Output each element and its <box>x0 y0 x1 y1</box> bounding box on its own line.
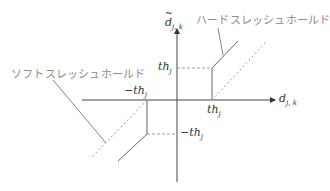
pos-y-threshold-label: thj <box>158 60 172 75</box>
soft-threshold-label: ソフトスレッシュホールド <box>11 65 145 81</box>
x-axis-label: dj, k <box>279 92 297 107</box>
neg-y-threshold-label: −thj <box>180 126 203 141</box>
soft-annotation-pointer <box>53 80 106 143</box>
soft-threshold-positive <box>212 42 266 100</box>
hard-threshold-negative <box>118 100 147 161</box>
y-axis-symbol: d <box>165 16 172 29</box>
x-axis-subscript: j, k <box>286 99 297 107</box>
y-axis-subscript: j, k <box>172 23 183 31</box>
pos-y-threshold-sub: j <box>170 67 172 75</box>
pos-y-threshold-text: th <box>158 60 170 73</box>
pos-x-threshold-label: thj <box>207 103 221 118</box>
pos-x-threshold-sub: j <box>219 110 221 118</box>
hard-annotation-pointer <box>218 28 223 55</box>
neg-y-threshold-sub: j <box>201 133 203 141</box>
neg-x-threshold-label: −thj <box>124 84 147 99</box>
neg-y-threshold-text: −th <box>180 126 201 139</box>
soft-threshold-negative <box>92 100 147 157</box>
pos-x-threshold-text: th <box>207 103 219 116</box>
hard-threshold-label: ハードスレッシュホールド <box>196 11 330 27</box>
hard-threshold-positive <box>212 41 238 100</box>
neg-x-threshold-sub: j <box>145 91 147 99</box>
x-axis-symbol: d <box>279 92 286 105</box>
neg-x-threshold-text: −th <box>124 84 145 97</box>
y-axis-label: dj, k <box>165 16 183 31</box>
